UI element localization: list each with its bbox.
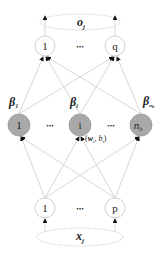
output-ellipsis: ••• (76, 43, 84, 51)
hidden-output-edges (19, 57, 141, 114)
hidden-ellipsis-left: ••• (46, 122, 54, 130)
output-group: oj (40, 14, 120, 36)
output-node-1: 1 (35, 36, 55, 56)
input-hidden-edges (21, 137, 139, 198)
input-group: xj (37, 219, 123, 246)
svg-text:1: 1 (16, 119, 22, 131)
input-node-p: p (105, 198, 125, 218)
svg-text:1: 1 (42, 202, 48, 214)
beta-1-label: β1 (8, 95, 18, 109)
input-label: xj (75, 229, 84, 245)
beta-nh-label: βnh (142, 94, 155, 109)
svg-text:p: p (112, 202, 118, 214)
svg-text:1: 1 (42, 40, 48, 52)
output-label: oj (77, 15, 85, 31)
beta-i-label: βi (69, 95, 78, 109)
output-node-q: q (105, 36, 125, 56)
svg-text:i: i (78, 119, 81, 131)
hidden-ellipsis-right: ••• (107, 122, 115, 130)
elm-network-diagram: oj 1 ••• q β1 1 ••• βi i ••• βnh nh (0, 0, 165, 258)
hidden-node-nh: βnh nh (130, 94, 155, 136)
network-canvas: oj 1 ••• q β1 1 ••• βi i ••• βnh nh (0, 0, 165, 258)
svg-text:q: q (112, 40, 118, 52)
hidden-node-1: β1 1 (8, 95, 30, 136)
input-node-1: 1 (35, 198, 55, 218)
weight-bias-label: (wi, bi) (85, 134, 107, 144)
input-ellipsis: ••• (76, 205, 84, 213)
